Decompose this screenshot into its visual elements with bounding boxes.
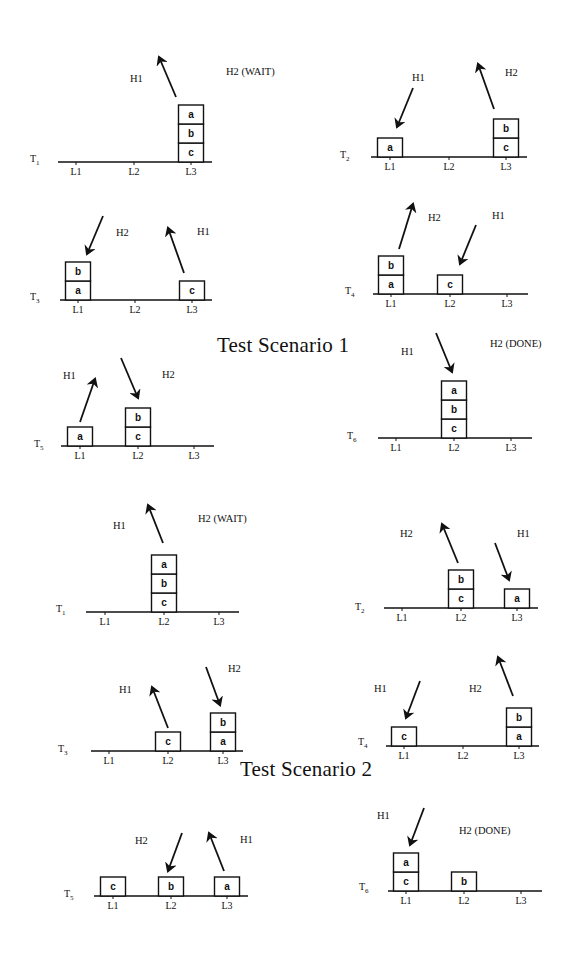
block-a: a bbox=[68, 427, 93, 446]
svg-text:b: b bbox=[188, 128, 194, 139]
block-a: a bbox=[378, 138, 403, 157]
block-b: b bbox=[494, 119, 519, 138]
location-label-l2: L2 bbox=[457, 750, 468, 761]
svg-text:b: b bbox=[461, 876, 467, 887]
location-label-l2: L2 bbox=[162, 755, 173, 766]
svg-text:b: b bbox=[458, 574, 464, 585]
panels-layer: T1L1L2L3cbaH1H2 (WAIT)T2L1L2L3acbH1H2T3L… bbox=[30, 57, 542, 911]
arrow-up-icon bbox=[478, 64, 494, 109]
block-c: c bbox=[179, 143, 204, 162]
hand-label: H1 bbox=[412, 72, 425, 83]
block-a: a bbox=[66, 281, 91, 300]
time-label: T6 bbox=[347, 430, 357, 444]
block-b: b bbox=[452, 872, 477, 891]
time-label: T2 bbox=[355, 601, 365, 615]
block-a: a bbox=[394, 853, 419, 872]
caption-scenario-1: Test Scenario 1 bbox=[217, 333, 349, 358]
block-c: c bbox=[392, 727, 417, 746]
svg-text:c: c bbox=[188, 147, 194, 158]
arrow-up-icon bbox=[159, 57, 176, 97]
block-c: c bbox=[494, 138, 519, 157]
block-a: a bbox=[507, 727, 532, 746]
panel-scenario1-t3: T3L1L2L3abcH2H1 bbox=[30, 216, 212, 315]
block-b: b bbox=[211, 713, 236, 732]
hand-label: H1 bbox=[517, 528, 530, 539]
svg-text:a: a bbox=[77, 431, 83, 442]
location-label-l3: L3 bbox=[185, 166, 196, 177]
hand-label: H2 (WAIT) bbox=[226, 66, 275, 78]
svg-text:c: c bbox=[401, 731, 407, 742]
time-label: T5 bbox=[64, 888, 74, 902]
svg-text:b: b bbox=[516, 712, 522, 723]
location-label-l1: L1 bbox=[400, 895, 411, 906]
panel-scenario2-t5: T5L1L2L3cbaH2H1 bbox=[64, 833, 253, 911]
block-b: b bbox=[379, 256, 404, 275]
hand-label: H1 bbox=[377, 810, 390, 821]
location-label-l2: L2 bbox=[129, 304, 140, 315]
arrow-up-icon bbox=[442, 524, 458, 563]
location-label-l3: L3 bbox=[515, 895, 526, 906]
panel-scenario1-t1: T1L1L2L3cbaH1H2 (WAIT) bbox=[30, 57, 275, 177]
location-label-l1: L1 bbox=[72, 304, 83, 315]
hand-label: H2 bbox=[400, 528, 413, 539]
hand-label: H2 (DONE) bbox=[490, 338, 542, 350]
location-label-l1: L1 bbox=[74, 450, 85, 461]
svg-text:b: b bbox=[75, 266, 81, 277]
location-label-l1: L1 bbox=[396, 612, 407, 623]
location-label-l3: L3 bbox=[213, 616, 224, 627]
hand-label: H1 bbox=[492, 210, 505, 221]
location-label-l3: L3 bbox=[513, 750, 524, 761]
svg-text:c: c bbox=[135, 431, 141, 442]
location-label-l1: L1 bbox=[398, 750, 409, 761]
location-label-l1: L1 bbox=[107, 900, 118, 911]
blocks-world-diagram: T1L1L2L3cbaH1H2 (WAIT)T2L1L2L3acbH1H2T3L… bbox=[0, 0, 580, 964]
time-label: T1 bbox=[56, 603, 66, 617]
arrow-down-icon bbox=[495, 543, 509, 580]
hand-label: H2 bbox=[505, 67, 518, 78]
panel-scenario2-t1: T1L1L2L3cbaH1H2 (WAIT) bbox=[56, 505, 247, 627]
svg-text:a: a bbox=[75, 285, 81, 296]
block-a: a bbox=[215, 877, 240, 896]
svg-text:a: a bbox=[220, 736, 226, 747]
arrow-up-icon bbox=[80, 379, 95, 422]
location-label-l1: L1 bbox=[70, 166, 81, 177]
location-label-l2: L2 bbox=[158, 616, 169, 627]
location-label-l3: L3 bbox=[500, 161, 511, 172]
block-c: c bbox=[101, 877, 126, 896]
arrow-down-icon bbox=[87, 216, 103, 254]
svg-text:b: b bbox=[220, 717, 226, 728]
location-label-l2: L2 bbox=[444, 298, 455, 309]
panel-scenario2-t4: T4L1L2L3cabH1H2 bbox=[358, 657, 539, 761]
arrow-down-icon bbox=[436, 333, 452, 372]
arrow-up-icon bbox=[148, 505, 163, 543]
arrow-down-icon bbox=[206, 667, 220, 705]
hand-label: H1 bbox=[63, 370, 76, 381]
time-label: T5 bbox=[34, 438, 44, 452]
block-c: c bbox=[180, 281, 205, 300]
svg-text:c: c bbox=[165, 736, 171, 747]
hand-label: H2 bbox=[135, 835, 148, 846]
panel-scenario1-t4: T4L1L2L3abcH2H1 bbox=[345, 204, 528, 309]
svg-text:a: a bbox=[387, 142, 393, 153]
hand-label: H1 bbox=[401, 346, 414, 357]
svg-text:a: a bbox=[403, 857, 409, 868]
hand-label: H1 bbox=[113, 520, 126, 531]
hand-label: H2 bbox=[428, 212, 441, 223]
hand-label: H2 (DONE) bbox=[459, 825, 511, 837]
hand-label: H1 bbox=[240, 834, 253, 845]
svg-text:b: b bbox=[168, 881, 174, 892]
svg-text:c: c bbox=[447, 279, 453, 290]
panel-scenario2-t2: T2L1L2L3cbaH2H1 bbox=[355, 524, 538, 623]
location-label-l2: L2 bbox=[448, 442, 459, 453]
svg-text:a: a bbox=[516, 731, 522, 742]
location-label-l3: L3 bbox=[501, 298, 512, 309]
block-a: a bbox=[152, 555, 177, 574]
hand-label: H1 bbox=[130, 73, 143, 84]
arrow-up-icon bbox=[498, 657, 513, 696]
time-label: T6 bbox=[359, 881, 369, 895]
svg-text:a: a bbox=[514, 593, 520, 604]
panel-scenario1-t5: T5L1L2L3acbH1H2 bbox=[34, 358, 214, 461]
svg-text:a: a bbox=[224, 881, 230, 892]
svg-text:c: c bbox=[403, 876, 409, 887]
location-label-l3: L3 bbox=[186, 304, 197, 315]
